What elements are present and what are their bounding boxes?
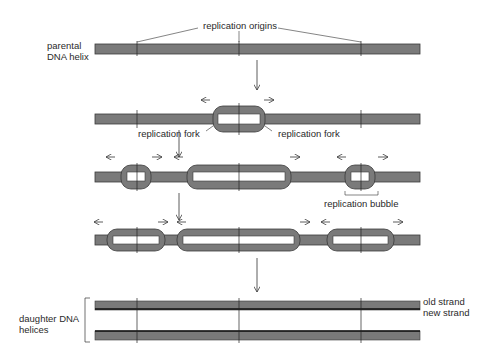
origin-leader-right xyxy=(278,28,361,42)
daughter-bracket xyxy=(85,298,90,342)
origin-leader-left xyxy=(137,28,198,42)
daughter-helices xyxy=(85,298,420,343)
replication-fork-left-label: replication fork xyxy=(138,128,200,139)
parental-label-1: parental xyxy=(47,40,81,51)
stage4-helix xyxy=(94,222,420,253)
daughter-label-2: helices xyxy=(19,324,49,335)
old-strand-label: old strand xyxy=(423,296,465,307)
bubble-bracket xyxy=(345,191,378,195)
stage3-helix xyxy=(95,157,420,195)
parental-helix xyxy=(95,28,420,56)
replication-fork-right-label: replication fork xyxy=(278,128,340,139)
parental-label-2: DNA helix xyxy=(47,51,89,62)
daughter-label-1: daughter DNA xyxy=(19,313,79,324)
replication-origins-label: replication origins xyxy=(203,20,277,31)
replication-bubble-label: replication bubble xyxy=(324,198,398,209)
new-strand-label: new strand xyxy=(423,307,469,318)
